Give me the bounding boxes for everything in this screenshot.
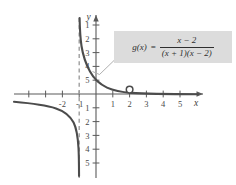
formula-numerator: x − 2 xyxy=(173,36,200,45)
x-tick-label: 3 xyxy=(144,99,148,109)
function-graph-figure: -2 -1 1 2 3 4 5 5 4 3 2 1 1 2 3 4 5 x y xyxy=(0,0,236,185)
x-tick-label: -2 xyxy=(59,99,66,109)
curve-left-branch xyxy=(14,102,79,176)
x-tick-label: -1 xyxy=(76,99,83,109)
hole-open-circle xyxy=(126,86,133,93)
graph-canvas: -2 -1 1 2 3 4 5 5 4 3 2 1 1 2 3 4 5 x y xyxy=(0,0,236,185)
x-tick-label: 4 xyxy=(161,99,166,109)
y-axis xyxy=(93,15,98,178)
y-tick-label: 5 xyxy=(85,158,89,168)
y-tick-label: 1 xyxy=(85,103,89,113)
y-tick-labels-positive: 5 4 3 2 1 xyxy=(85,20,90,85)
formula-equals-sign: = xyxy=(150,42,157,52)
y-tick-label: 5 xyxy=(85,75,89,85)
y-tick-label: 2 xyxy=(85,117,89,127)
y-tick-label: 2 xyxy=(85,34,89,44)
x-tick-label: 1 xyxy=(111,99,115,109)
x-tick-label: 5 xyxy=(178,99,182,109)
y-tick-label: 3 xyxy=(85,48,89,58)
y-tick-label: 3 xyxy=(85,131,89,141)
x-tick-label: 2 xyxy=(127,99,131,109)
formula-function-name: g(x) xyxy=(132,42,147,52)
y-axis-label: y xyxy=(85,12,91,22)
formula-callout-text: g(x) = x − 2 (x + 1)(x − 2) xyxy=(114,31,232,63)
x-axis-label: x xyxy=(193,98,199,108)
x-tick-labels: -2 -1 1 2 3 4 5 xyxy=(59,99,182,109)
y-tick-labels-negative: 1 2 3 4 5 xyxy=(85,103,90,168)
formula-denominator: (x + 1)(x − 2) xyxy=(160,49,214,58)
y-tick-label: 4 xyxy=(85,144,90,154)
formula-fraction: x − 2 (x + 1)(x − 2) xyxy=(160,36,214,58)
